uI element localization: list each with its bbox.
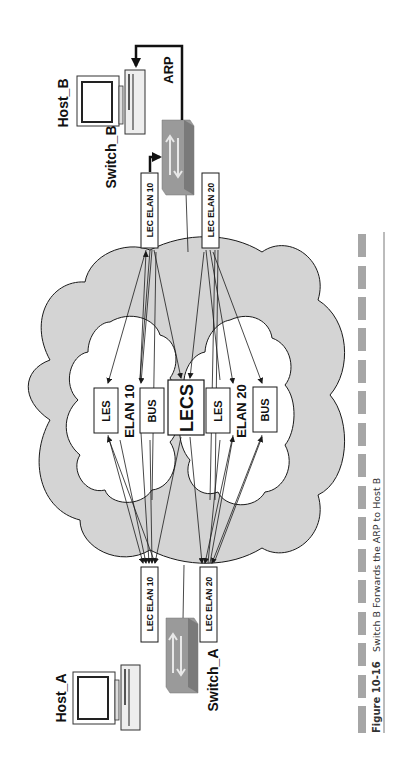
switch-a-trunk [183,565,184,620]
svg-text:LES: LES [100,400,112,421]
lec-elan20-switch-b: LEC ELAN 20 [202,173,219,248]
figure-caption: Switch B Forwards the ARP to Host B [371,478,382,652]
elan10-label: ELAN 10 [122,384,137,437]
lec-elan10-switch-b: LEC ELAN 10 [141,173,158,248]
svg-text:LEC ELAN 20: LEC ELAN 20 [206,183,216,238]
switch-a [166,618,198,693]
host-a-label: Host_A [53,673,69,722]
svg-text:LEC ELAN 10: LEC ELAN 10 [145,577,155,632]
svg-text:BUS: BUS [259,398,271,421]
forward-arrow [150,157,160,172]
elan20-bus-box: BUS [253,387,277,432]
elan10-les-box: LES [94,388,118,433]
caption-dash-bar [358,234,366,733]
figure-number: Figure 10-16 [371,661,382,733]
elan20-les-box: LES [206,388,230,433]
arp-label: ARP [161,56,176,84]
elan10-bus-box: BUS [140,388,164,433]
svg-text:LEC ELAN 10: LEC ELAN 10 [145,183,155,238]
lec-elan10-switch-a: LEC ELAN 10 [141,567,158,642]
switch-a-label: Switch_A [205,648,221,711]
lecs-box: LECS [168,380,204,435]
switch-b [162,120,194,195]
elan20-label: ELAN 20 [234,384,249,437]
host-b-label: Host_B [55,78,71,127]
switch-b-label: Switch_B [103,125,119,188]
svg-text:BUS: BUS [146,399,158,422]
svg-text:LEC ELAN 20: LEC ELAN 20 [204,577,214,632]
svg-text:LES: LES [212,400,224,421]
host-b-computer-icon [77,70,145,134]
svg-text:LECS: LECS [177,384,197,432]
atm-lane-diagram: LES ELAN 10 BUS LECS LES ELAN 20 BUS LEC… [0,0,408,769]
lec-elan20-switch-a: LEC ELAN 20 [200,567,217,642]
host-a-computer-icon [73,665,140,730]
